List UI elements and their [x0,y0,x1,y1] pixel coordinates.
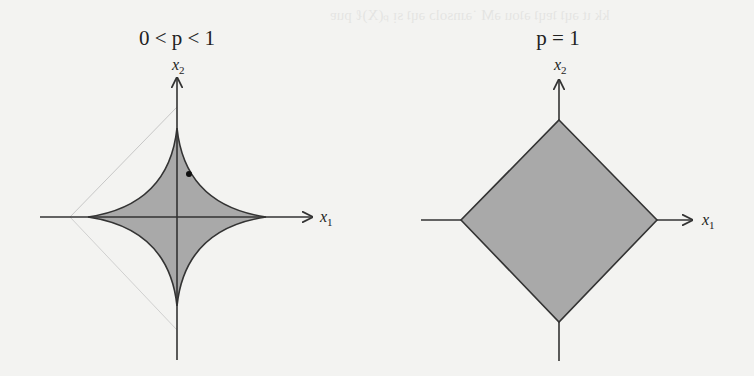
panel-title: p = 1 [536,26,579,50]
diamond-region [461,120,657,322]
panel-p-less-than-1: 0 < p < 1 x1 x2 [40,26,333,360]
panel-p-equals-1: p = 1 x1 x2 [421,26,715,361]
x2-axis-label: x2 [171,56,185,76]
x1-axis-label: x1 [319,208,333,228]
point-marker [186,171,192,177]
x1-axis-label: x1 [701,211,715,231]
panel-title: 0 < p < 1 [139,26,215,50]
unit-ball-diagram: 0 < p < 1 x1 x2 p = 1 x1 x2 [0,0,754,376]
x2-axis-label: x2 [553,56,567,76]
